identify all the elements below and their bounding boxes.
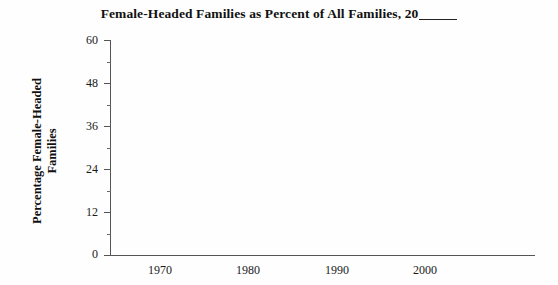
y-tick-48 [104,83,111,84]
chart-title: Female-Headed Families as Percent of All… [0,6,558,22]
y-tick-36 [104,126,111,127]
y-minor-tick-18 [107,191,111,192]
y-tick-label-60: 60 [68,34,98,46]
title-fill-in-blank [419,8,457,20]
x-tick-label-1970: 1970 [130,264,190,276]
x-tick-label-1990: 1990 [307,264,367,276]
y-minor-tick-6 [107,234,111,235]
y-minor-tick-30 [107,148,111,149]
chart-page: Female-Headed Families as Percent of All… [0,0,558,285]
y-axis-title: Percentage Female-Headed Families [22,46,68,256]
x-tick-label-2000: 2000 [395,264,455,276]
chart-title-text: Female-Headed Families as Percent of All… [101,6,419,21]
y-axis-title-line-2: Families [45,46,60,256]
y-tick-label-12: 12 [68,206,98,218]
y-tick-label-0: 0 [68,248,98,260]
y-tick-label-36: 36 [68,120,98,132]
x-axis-line [110,255,535,256]
y-tick-label-48: 48 [68,77,98,89]
y-tick-0 [104,255,111,256]
y-tick-60 [104,40,111,41]
x-tick-label-1980: 1980 [218,264,278,276]
y-minor-tick-42 [107,105,111,106]
y-axis-title-line-1: Percentage Female-Headed [30,78,44,224]
y-tick-12 [104,212,111,213]
y-tick-24 [104,169,111,170]
y-tick-label-24: 24 [68,163,98,175]
plot-area[interactable] [110,40,535,255]
y-axis-title-text: Percentage Female-Headed Families [30,46,60,256]
y-minor-tick-54 [107,62,111,63]
